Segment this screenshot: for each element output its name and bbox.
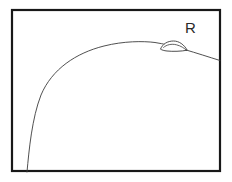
label-r: R bbox=[185, 19, 196, 36]
figure-canvas: R bbox=[0, 0, 232, 182]
figure-container: R bbox=[0, 0, 232, 182]
